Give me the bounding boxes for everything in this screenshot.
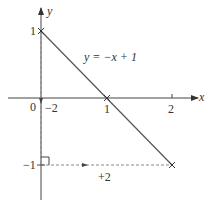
x-tick-2: 2 [168, 102, 174, 116]
right-arrow-icon [82, 163, 88, 167]
x-tick-1: 1 [104, 102, 110, 116]
x-axis-label: x [198, 90, 205, 104]
origin-label: 0 [30, 100, 36, 114]
y-tick-neg1: −1 [23, 158, 36, 172]
point-marker [169, 162, 175, 168]
vertical-step-label: −2 [45, 101, 58, 115]
y-tick-1: 1 [30, 24, 36, 38]
horizontal-step-label: +2 [98, 170, 111, 184]
y-axis-label: y [46, 4, 53, 18]
equation-label: y = −x + 1 [83, 50, 137, 64]
coordinate-graph: y x 0 1 −1 1 2 y = −x + 1 −2 +2 [0, 0, 212, 223]
right-angle-marker [41, 157, 49, 165]
down-arrow-icon [39, 98, 43, 104]
